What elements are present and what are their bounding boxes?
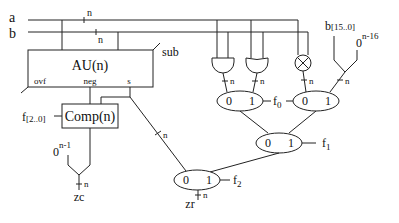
- and-width-label: n: [230, 76, 235, 86]
- lui-width-label: n: [345, 76, 350, 86]
- mux-input-0: 0: [183, 173, 189, 187]
- select-f0: f0: [263, 94, 293, 110]
- mux-input-0: 0: [302, 94, 308, 108]
- f0-label: f0: [273, 94, 282, 110]
- mux-input-0: 0: [226, 94, 232, 108]
- b-width-label: n: [98, 34, 103, 45]
- mux-f2: 0 1 f2: [174, 153, 279, 190]
- s-width-label: n: [163, 130, 168, 140]
- zr-output: n zr: [185, 190, 208, 211]
- input-a-label: a: [9, 10, 16, 25]
- lui-const-label: 0n-16: [356, 31, 379, 50]
- mux-input-1: 1: [206, 173, 212, 187]
- mux-input-0: 0: [265, 136, 271, 150]
- or-width-label: n: [260, 76, 265, 86]
- xor-width-label: n: [309, 76, 314, 86]
- mux-input-1: 1: [325, 94, 331, 108]
- and-gate: n: [212, 58, 235, 92]
- lui-concat: b[15..0] 0n-16 n: [325, 19, 379, 92]
- au-label: AU(n): [72, 58, 109, 74]
- lui-src-label: b[15..0]: [325, 19, 355, 33]
- f1-label: f1: [322, 136, 331, 152]
- s-port-label: s: [127, 76, 131, 86]
- mux-f0-left: 0 1: [217, 91, 263, 111]
- zc-width-label: n: [84, 179, 89, 189]
- input-b-label: b: [9, 26, 16, 41]
- ovf-port-label: ovf: [34, 76, 46, 86]
- zc-label: zc: [74, 190, 85, 204]
- s-wire: n: [101, 87, 186, 171]
- zc-output: 0n-1 n zc: [53, 128, 90, 204]
- mux-f0-right: 0 1: [293, 91, 339, 111]
- a-width-label: n: [87, 7, 92, 18]
- alu-schematic: a n b n AU(n) sub ovf neg s: [0, 0, 399, 223]
- xor-gate: n: [295, 55, 314, 92]
- comp-label: Comp(n): [65, 109, 116, 125]
- mux-input-1: 1: [249, 94, 255, 108]
- mux-input-1: 1: [288, 136, 294, 150]
- comp-ctrl-label: f[2..0]: [22, 110, 46, 124]
- zr-width-label: n: [203, 190, 208, 200]
- or-gate: n: [246, 58, 268, 92]
- arithmetic-unit: AU(n) sub ovf neg s: [21, 43, 179, 93]
- zr-label: zr: [185, 197, 194, 211]
- f2-label: f2: [233, 173, 242, 189]
- comparator: Comp(n) f[2..0]: [22, 104, 118, 128]
- neg-port-label: neg: [84, 76, 97, 86]
- sub-label: sub: [162, 45, 179, 59]
- mux-f1: 0 1 f1: [240, 111, 331, 153]
